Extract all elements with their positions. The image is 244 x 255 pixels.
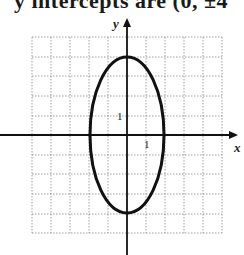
x-axis-arrow-icon	[229, 131, 238, 139]
x-tick-label: 1	[144, 138, 150, 150]
y-tick-label: 1	[117, 110, 123, 122]
y-axis-label: y	[111, 16, 119, 31]
y-axis-arrow-icon	[123, 18, 131, 27]
x-axis-label: x	[233, 140, 241, 155]
ellipse-graph: y x 1 1	[0, 0, 244, 255]
